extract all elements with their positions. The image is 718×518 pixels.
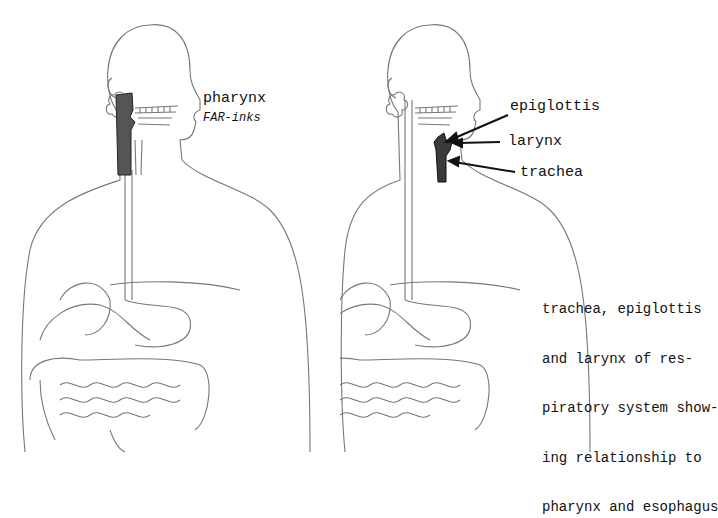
pharynx-label: pharynx xyxy=(203,90,266,107)
trachea-arrow xyxy=(454,162,515,172)
torso-outline-left xyxy=(0,0,330,452)
caption-line: and larynx of res- xyxy=(542,351,718,368)
caption-line: ing relationship to xyxy=(542,450,718,467)
epiglottis-label: epiglottis xyxy=(510,98,600,115)
caption-line: piratory system show- xyxy=(542,400,718,417)
trachea-label: trachea xyxy=(520,164,583,181)
larynx-arrow xyxy=(458,142,500,143)
epiglottis-arrow xyxy=(450,115,508,140)
pharynx-pronunciation: FAR-inks xyxy=(203,110,261,127)
caption-line: trachea, epiglottis xyxy=(542,301,718,318)
figure-caption: trachea, epiglottis and larynx of res- p… xyxy=(542,268,718,518)
larynx-label: larynx xyxy=(508,133,562,150)
left-anatomy-figure: pharynx FAR-inks xyxy=(0,0,330,452)
caption-line: pharynx and esophagus xyxy=(542,499,718,516)
pharynx-highlight xyxy=(116,93,135,175)
